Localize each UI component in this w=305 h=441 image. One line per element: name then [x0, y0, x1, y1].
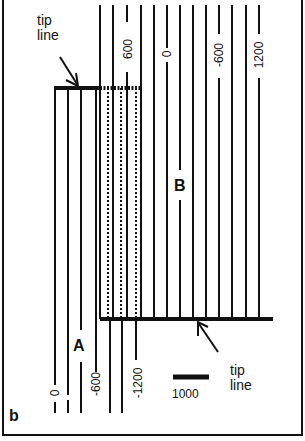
lower-tip-label: tip line: [230, 363, 252, 393]
region-label-b: B: [174, 177, 186, 195]
contour-label-600: 600: [121, 34, 135, 64]
tip-lines: [54, 88, 273, 319]
arrow-icon: [198, 322, 218, 352]
scale-bar-label: 1000: [172, 387, 199, 401]
block-a-lines: [55, 88, 136, 413]
panel-label: b: [9, 407, 19, 425]
region-label-a: A: [73, 337, 85, 355]
contour-label-0-a: 0: [48, 379, 62, 407]
contour-label-neg600-b: -600: [212, 38, 226, 72]
upper-tip-label: tip line: [37, 13, 59, 43]
contour-label-neg1200-b: 1200: [252, 36, 266, 74]
contour-label-0-b: 0: [160, 39, 174, 69]
contour-label-neg600-a: -600: [89, 367, 103, 401]
contour-label-neg1200-a: -1200: [131, 363, 145, 403]
arrow-icon: [60, 57, 78, 86]
